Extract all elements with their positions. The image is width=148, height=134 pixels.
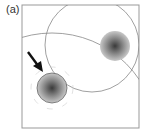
target-spot <box>37 73 67 103</box>
upper-spot <box>100 31 130 61</box>
arrow-icon <box>28 52 43 72</box>
figure-panel <box>0 0 148 134</box>
